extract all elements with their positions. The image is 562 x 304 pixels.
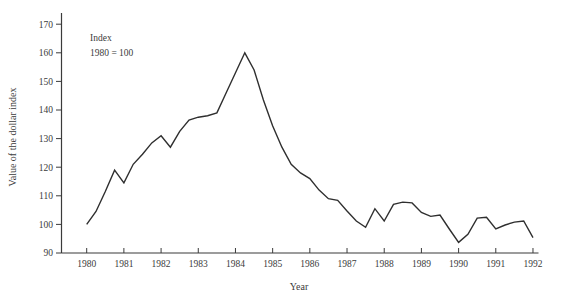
y-axis-title: Value of the dollar index	[7, 88, 18, 187]
annotation-line-1: Index	[90, 33, 112, 43]
y-tick-label: 100	[39, 220, 54, 230]
x-axis-title: Year	[290, 281, 309, 292]
dollar-index-chart: 90100110120130140150160170 1980198119821…	[0, 0, 562, 304]
x-tick-label: 1988	[375, 259, 394, 269]
y-tick-label: 140	[39, 105, 54, 115]
index-annotation: Index 1980 = 100	[90, 33, 134, 58]
y-tick-label: 90	[44, 248, 54, 258]
x-tick-label: 1985	[263, 259, 282, 269]
y-tick-label: 110	[39, 191, 53, 201]
y-axis-ticks: 90100110120130140150160170	[39, 20, 62, 259]
y-tick-label: 160	[39, 48, 54, 58]
y-tick-label: 130	[39, 134, 54, 144]
x-axis-ticks: 1980198119821983198419851986198719881989…	[77, 248, 543, 269]
x-tick-label: 1984	[226, 259, 245, 269]
x-tick-label: 1981	[114, 259, 133, 269]
y-tick-label: 170	[39, 20, 54, 30]
x-tick-label: 1989	[412, 259, 431, 269]
annotation-line-2: 1980 = 100	[90, 48, 134, 58]
x-tick-label: 1986	[300, 259, 319, 269]
x-tick-label: 1990	[449, 259, 468, 269]
x-tick-label: 1983	[189, 259, 208, 269]
x-tick-label: 1982	[152, 259, 171, 269]
figure: 90100110120130140150160170 1980198119821…	[0, 0, 562, 304]
x-tick-label: 1987	[338, 259, 357, 269]
x-tick-label: 1992	[523, 259, 542, 269]
x-tick-label: 1991	[486, 259, 505, 269]
series-line	[87, 53, 533, 243]
y-tick-label: 120	[39, 163, 54, 173]
x-tick-label: 1980	[77, 259, 96, 269]
y-tick-label: 150	[39, 77, 54, 87]
